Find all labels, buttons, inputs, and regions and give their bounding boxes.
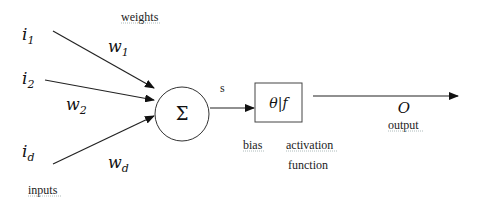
input-d-label: id (22, 141, 34, 164)
sigma-symbol: Σ (176, 103, 189, 124)
perceptron-diagram: i1 i2 id w1 w2 wd weights inputs Σ s θ|f… (0, 0, 479, 211)
input-2-arrow (45, 80, 154, 100)
input-1-label: i1 (22, 24, 34, 47)
svg-text:w1: w1 (108, 37, 129, 59)
weights-caption: weights (121, 10, 159, 24)
inputs-caption: inputs (28, 183, 58, 197)
output-symbol: O (398, 99, 410, 117)
svg-text:w2: w2 (66, 95, 87, 117)
svg-text:id: id (22, 141, 34, 164)
input-1-arrow (53, 31, 154, 88)
activation-caption: activation (286, 138, 333, 152)
svg-text:i2: i2 (22, 68, 34, 91)
function-caption: function (288, 158, 328, 172)
weight-1-label: w1 (108, 37, 129, 59)
sum-output-label: s (220, 81, 225, 95)
weight-2-label: w2 (66, 95, 87, 117)
bias-caption: bias (243, 138, 263, 152)
input-2-label: i2 (22, 68, 34, 91)
theta-f-label: θ|f (269, 95, 290, 112)
output-caption: output (388, 118, 419, 132)
weight-d-label: wd (108, 153, 129, 175)
svg-text:wd: wd (108, 153, 129, 175)
svg-text:i1: i1 (22, 24, 34, 47)
input-d-arrow (53, 116, 154, 164)
